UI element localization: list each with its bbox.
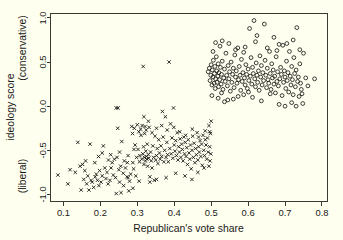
y-tick-label: 0.5: [37, 56, 48, 69]
y-tick-label: 0.0: [37, 100, 48, 113]
x-tick-label: 0.6: [242, 207, 255, 218]
plot-canvas: 0.10.20.30.40.50.60.70.8 -1.0-0.50.00.51…: [0, 0, 343, 240]
x-tick-label: 0.4: [168, 207, 181, 218]
y-axis-liberal-annotation: (liberal): [17, 159, 28, 194]
x-tick-label: 0.3: [131, 207, 144, 218]
x-tick-label: 0.8: [315, 207, 328, 218]
x-tick-label: 0.2: [94, 207, 107, 218]
scatter-plot-figure: 0.10.20.30.40.50.60.70.8 -1.0-0.50.00.51…: [0, 0, 343, 240]
y-axis-conservative-annotation: (conservative): [17, 15, 28, 80]
y-axis-title: ideology score: [5, 73, 16, 140]
x-tick-label: 0.7: [279, 207, 292, 218]
figure-background: [0, 0, 343, 240]
x-tick-label: 0.5: [205, 207, 218, 218]
y-tick-label: -1.0: [37, 186, 48, 202]
x-tick-label: 0.1: [57, 207, 70, 218]
y-tick-label: -0.5: [37, 142, 48, 158]
y-tick-label: 1.0: [37, 11, 48, 24]
x-axis-title: Republican's vote share: [133, 223, 244, 234]
